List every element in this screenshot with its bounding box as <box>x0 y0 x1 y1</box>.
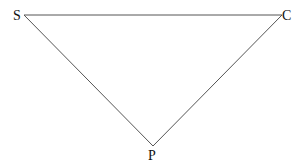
edge-c-p <box>153 15 282 146</box>
vertex-label-c: C <box>282 9 291 23</box>
vertex-label-p: P <box>148 149 156 163</box>
triangle-diagram <box>0 0 303 165</box>
edge-s-p <box>24 15 153 146</box>
vertex-label-s: S <box>13 9 21 23</box>
